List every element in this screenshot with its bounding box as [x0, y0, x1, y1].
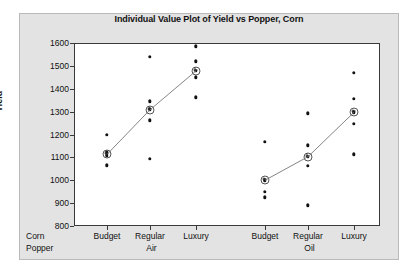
chart-page: Individual Value Plot of Yield vs Popper… — [0, 0, 418, 274]
mean-connector — [107, 71, 196, 154]
mean-connector-lines — [0, 0, 418, 274]
mean-connector — [265, 112, 354, 180]
